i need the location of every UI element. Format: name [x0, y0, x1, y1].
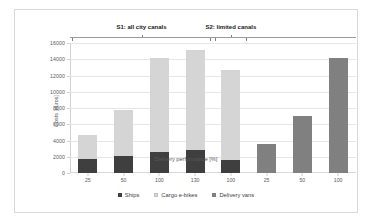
- y-axis-tick-label: 6000: [53, 121, 65, 127]
- legend-label: Delivery vans: [219, 192, 254, 198]
- y-axis-tick-label: 0: [62, 170, 65, 176]
- y-axis-tick-label: 14000: [50, 56, 65, 62]
- x-axis-tick-label: 100: [227, 177, 236, 183]
- ships-swatch-icon: [118, 193, 122, 197]
- legend-label: Ships: [125, 192, 140, 198]
- legend-item[interactable]: Ships: [118, 192, 140, 198]
- x-axis-tick-mark: [266, 173, 267, 176]
- y-axis-tick-mark: [67, 173, 70, 174]
- bar-segment-ebikes[interactable]: [221, 70, 240, 160]
- chart-figure: Costs [euros] 02000400060008000100001200…: [0, 0, 372, 222]
- bar-column[interactable]: [293, 116, 312, 173]
- bar-segment-vans[interactable]: [293, 116, 312, 173]
- x-axis-title: Delivery performance [%]: [15, 156, 357, 162]
- bar-segment-ebikes[interactable]: [150, 58, 169, 152]
- x-axis-tick-label: 50: [121, 177, 127, 183]
- x-axis-tick-label: 100: [334, 177, 343, 183]
- bar-segment-ebikes[interactable]: [186, 50, 205, 150]
- x-axis-tick-label: 130: [191, 177, 200, 183]
- bar-column[interactable]: [186, 50, 205, 173]
- chart-legend: ShipsCargo e-bikesDelivery vans: [15, 192, 357, 198]
- annotation-label: S2: limited canals: [206, 24, 257, 30]
- y-axis-tick-label: 16000: [50, 40, 65, 46]
- x-axis-tick-mark: [230, 173, 231, 176]
- chart-frame: Costs [euros] 02000400060008000100001200…: [14, 9, 358, 213]
- x-axis-tick-label: 100: [155, 177, 164, 183]
- x-axis-tick-label: 25: [85, 177, 91, 183]
- bar-segment-ebikes[interactable]: [114, 110, 133, 156]
- x-axis-tick-mark: [302, 173, 303, 176]
- annotation-label: S1: all city canals: [116, 24, 166, 30]
- x-axis-tick-mark: [338, 173, 339, 176]
- x-axis-tick-label: 25: [264, 177, 270, 183]
- cargo-ebikes-swatch-icon: [154, 193, 158, 197]
- legend-label: Cargo e-bikes: [161, 192, 197, 198]
- delivery-vans-swatch-icon: [212, 193, 216, 197]
- bar-column[interactable]: [78, 135, 97, 173]
- y-axis-tick-label: 12000: [50, 73, 65, 79]
- legend-item[interactable]: Delivery vans: [212, 192, 254, 198]
- top-rule: [70, 37, 356, 38]
- x-axis-tick-mark: [87, 173, 88, 176]
- x-axis-tick-label: 50: [299, 177, 305, 183]
- bar-column[interactable]: [114, 110, 133, 173]
- x-axis-tick-mark: [123, 173, 124, 176]
- bar-series-container: [70, 43, 356, 173]
- y-axis-tick-label: 8000: [53, 105, 65, 111]
- x-axis-tick-mark: [195, 173, 196, 176]
- y-axis-tick-label: 10000: [50, 89, 65, 95]
- y-axis-tick-label: 4000: [53, 138, 65, 144]
- plot-area: 0200040006000800010000120001400016000 25…: [70, 43, 356, 173]
- x-axis-tick-mark: [159, 173, 160, 176]
- legend-item[interactable]: Cargo e-bikes: [154, 192, 197, 198]
